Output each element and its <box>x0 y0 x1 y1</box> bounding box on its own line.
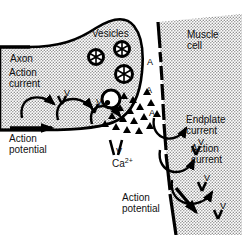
figure-canvas: Axon Action current Vesicles Muscle cell… <box>0 0 242 235</box>
label-action-current-left: Action current <box>9 68 40 89</box>
label-vesicles: Vesicles <box>92 29 129 40</box>
muscle-membrane-seg <box>163 104 164 120</box>
label-muscle-cell: Muscle cell <box>187 30 219 51</box>
calcium-symbol: Ca <box>112 158 125 169</box>
voltage-gated-channel-symbol: V <box>204 173 210 183</box>
label-action-current-right: Action current <box>191 144 222 165</box>
voltage-gated-channel-symbol: V <box>64 88 70 98</box>
label-endplate-current: Endplate current <box>186 115 225 136</box>
voltage-gated-channel-symbol: V <box>116 146 122 156</box>
muscle-membrane-seg <box>160 52 161 62</box>
vesicle <box>89 50 104 65</box>
label-axon: Axon <box>10 54 33 65</box>
vesicle <box>115 42 130 57</box>
vesicle <box>116 66 133 83</box>
label-action-potential-bottom: Action potential <box>122 193 160 214</box>
ach-receptor-channel-symbol: A <box>146 85 152 95</box>
calcium-charge: 2+ <box>125 157 133 164</box>
muscle-membrane-seg <box>158 22 160 48</box>
ach-receptor-channel-symbol: A <box>147 57 153 67</box>
voltage-gated-channel-symbol: V <box>96 97 102 107</box>
voltage-gated-channel-symbol: V <box>220 201 226 211</box>
ach-receptor-channel-symbol: A <box>149 108 155 118</box>
muscle-membrane-seg <box>161 66 162 80</box>
label-calcium: Ca2+ <box>112 157 133 170</box>
muscle-membrane-seg <box>162 84 163 100</box>
voltage-gated-channel-symbol: V <box>198 137 204 147</box>
label-action-potential-left: Action potential <box>9 134 47 155</box>
